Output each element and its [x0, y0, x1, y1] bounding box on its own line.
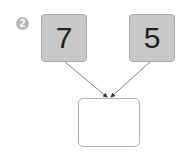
answer-box[interactable]	[78, 98, 140, 147]
left-arrow	[65, 62, 107, 97]
right-arrow	[111, 62, 150, 97]
